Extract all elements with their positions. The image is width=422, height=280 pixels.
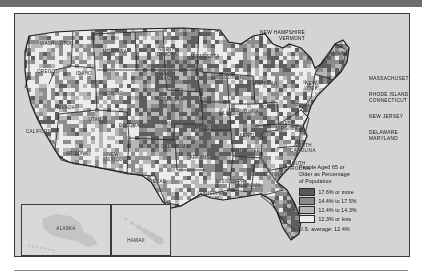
state-label-north-carolina: NORTH CAROLINA	[290, 143, 316, 153]
inset-alaska: ALASKA	[21, 204, 111, 256]
top-band	[0, 0, 422, 7]
state-label-washington: WASHINGTON	[40, 41, 74, 46]
state-label-new-york: NEW YORK	[304, 81, 318, 91]
state-label-utah: UTAH	[88, 117, 101, 122]
inset-hawaii: HAWAII	[111, 204, 171, 256]
legend-row-2: 12.4% to 14.3%	[299, 206, 405, 214]
legend-items: 17.6% or more14.4% to 17.5%12.4% to 14.3…	[299, 189, 405, 224]
state-label-kentucky: KENTUCKY	[239, 133, 266, 138]
state-label-new-mexico: NEW MEXICO	[103, 152, 123, 162]
inset-label-alaska: ALASKA	[56, 226, 75, 231]
legend-row-0: 17.6% or more	[299, 189, 405, 197]
state-label-illinois: ILLINOIS	[219, 111, 240, 116]
state-label-wisconsin: WISCONSIN	[215, 75, 244, 80]
state-label-maine: MAINE	[333, 51, 349, 56]
state-label-colorado: COLORADO	[119, 123, 147, 128]
state-label-penn: PENN.	[295, 103, 310, 108]
state-label-south-dakota: SOUTH DAKOTA	[157, 71, 177, 81]
state-label-texas: TEXAS	[150, 179, 166, 184]
legend-average: U.S. average: 12.4%	[299, 226, 405, 232]
state-label-west-virginia: WEST VIRGINIA	[276, 121, 298, 131]
state-label-california: CALIFORNIA	[26, 129, 56, 134]
state-label-kansas: KANSAS	[162, 121, 182, 126]
state-label-nevada: NEVADA	[55, 105, 75, 110]
state-label-iowa: IOWA	[198, 97, 211, 102]
state-label-arizona: ARIZONA	[66, 151, 88, 156]
inset-label-hawaii: HAWAII	[127, 238, 145, 243]
state-label-montana: MONTANA	[103, 49, 127, 54]
callout-label-newhampshire-vermont: NEW HAMPSHIRE VERMONT	[225, 30, 305, 41]
legend-label-3: 12.3% or less	[319, 216, 352, 222]
map-legend: People Aged 65 or Older as Percentage of…	[299, 164, 405, 232]
legend-label-2: 12.4% to 14.3%	[319, 207, 357, 213]
state-label-missouri: MISSOURI	[195, 125, 220, 130]
legend-swatch-0	[299, 188, 315, 196]
state-label-tennessee: TENNESSEE	[230, 148, 260, 153]
state-label-michigan: MICHIGAN	[253, 81, 278, 86]
state-label-oregon: OREGON	[37, 69, 59, 74]
bottom-rule	[14, 270, 408, 271]
callout-label-rhodeisland-connecticut: RHODE ISLAND CONNECTICUT	[369, 92, 409, 103]
map-frame: WASHINGTONOREGONIDAHOMONTANANORTH DAKOTA…	[14, 13, 410, 257]
state-label-minnesota: MINNESOTA	[190, 54, 219, 59]
state-label-indiana: INDIANA	[239, 109, 259, 114]
state-label-idaho: IDAHO	[76, 71, 92, 76]
state-label-oklahoma: OKLAHOMA	[161, 144, 189, 149]
legend-swatch-2	[299, 206, 315, 214]
legend-swatch-3	[299, 215, 315, 223]
legend-label-1: 14.4% to 17.5%	[319, 198, 357, 204]
state-label-north-dakota: NORTH DAKOTA	[157, 47, 177, 57]
state-label-va: VA.	[301, 131, 309, 136]
state-label-georgia: GEORGIA	[259, 172, 282, 177]
map-page: WASHINGTONOREGONIDAHOMONTANANORTH DAKOTA…	[0, 0, 422, 280]
callout-label-delaware-maryland: DELAWARE MARYLAND	[369, 130, 398, 141]
state-label-louisiana: LOUISIANA	[198, 191, 225, 196]
callout-label-newjersey: NEW JERSEY	[369, 114, 403, 120]
state-label-alabama: ALABAMA	[237, 183, 260, 188]
state-label-ohio: OHIO	[263, 105, 276, 110]
legend-row-3: 12.3% or less	[299, 215, 405, 223]
state-label-arkansas: ARKANSAS	[189, 155, 216, 160]
legend-title: People Aged 65 or Older as Percentage of…	[299, 164, 405, 186]
callout-label-massachusetts: MASSACHUSETTS	[369, 76, 410, 82]
legend-row-1: 14.4% to 17.5%	[299, 198, 405, 206]
state-label-wyoming: WYOMING	[99, 91, 124, 96]
legend-swatch-1	[299, 197, 315, 205]
state-label-nebraska: NEBRASKA	[156, 97, 183, 102]
legend-label-0: 17.6% or more	[319, 189, 354, 195]
